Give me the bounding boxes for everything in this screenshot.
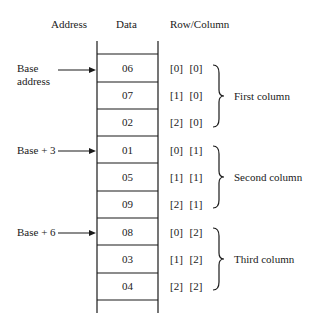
base-plus-6-label: Base + 6 xyxy=(17,226,56,239)
row-column-index: [1] [2] xyxy=(170,253,202,265)
row-column-index: [1] [1] xyxy=(170,171,202,183)
base-plus-3-label: Base + 3 xyxy=(17,144,56,157)
data-cell: 03 xyxy=(97,253,158,265)
data-cell: 08 xyxy=(97,226,158,238)
memory-diagram-lines xyxy=(0,0,309,321)
data-cell: 07 xyxy=(97,89,158,101)
data-cell: 05 xyxy=(97,171,158,183)
second-column-label: Second column xyxy=(234,171,302,184)
row-column-index: [2] [0] xyxy=(170,116,202,128)
row-column-index: [0] [1] xyxy=(170,144,202,156)
base-address-label: Base address xyxy=(17,62,50,88)
row-column-index: [0] [0] xyxy=(170,62,202,74)
row-column-index: [2] [2] xyxy=(170,280,202,292)
row-column-index: [2] [1] xyxy=(170,198,202,210)
row-column-index: [1] [0] xyxy=(170,89,202,101)
data-cell: 01 xyxy=(97,144,158,156)
data-cell: 04 xyxy=(97,280,158,292)
data-cell: 09 xyxy=(97,198,158,210)
row-column-index: [0] [2] xyxy=(170,226,202,238)
first-column-label: First column xyxy=(234,90,290,103)
data-cell: 02 xyxy=(97,116,158,128)
data-cell: 06 xyxy=(97,62,158,74)
third-column-label: Third column xyxy=(234,253,294,266)
